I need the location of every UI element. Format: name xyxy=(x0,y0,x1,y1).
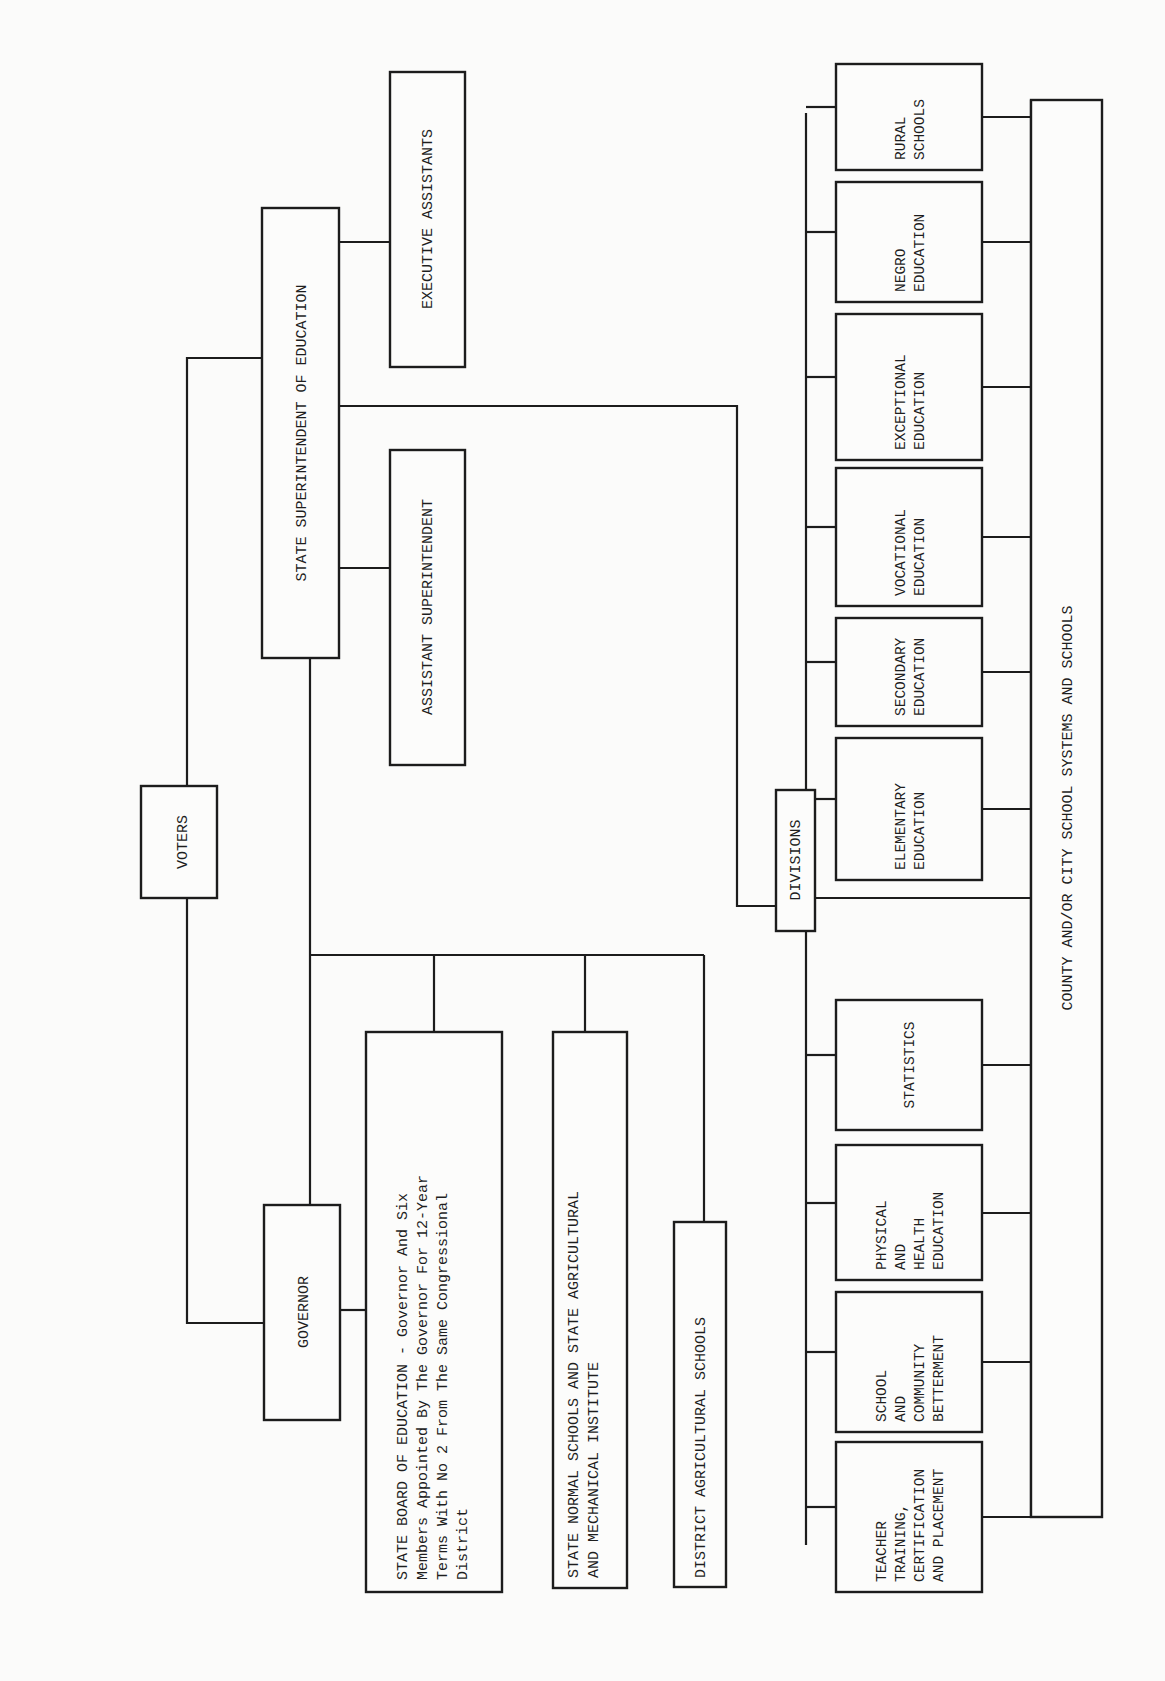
division-label-line: EXCEPTIONAL xyxy=(893,354,909,450)
node-executive-assistants: EXECUTIVE ASSISTANTS xyxy=(390,72,465,367)
governor-label: GOVERNOR xyxy=(296,1276,313,1348)
division-label-line: STATISTICS xyxy=(902,1021,918,1108)
executive-assistants-label: EXECUTIVE ASSISTANTS xyxy=(420,129,437,309)
division-label-line: EDUCATION xyxy=(912,214,928,292)
division-label-line: SECONDARY xyxy=(893,637,909,716)
division-box xyxy=(836,64,982,170)
division-label-line: VOCATIONAL xyxy=(893,509,909,596)
division-label-line: HEALTH xyxy=(912,1218,928,1270)
node-assistant-superintendent: ASSISTANT SUPERINTENDENT xyxy=(390,450,465,765)
divisions-label: DIVISIONS xyxy=(788,819,805,900)
division-box xyxy=(836,1442,982,1592)
division-node: ELEMENTARYEDUCATION xyxy=(836,738,982,880)
division-label-line: CERTIFICATION xyxy=(912,1469,928,1582)
division-label-line: SCHOOL xyxy=(874,1370,890,1422)
connector-voters-governor xyxy=(187,898,264,1323)
division-node: VOCATIONALEDUCATION xyxy=(836,468,982,606)
normal-schools-line-2: AND MECHANICAL INSTITUTE xyxy=(586,1362,603,1578)
voters-label: VOTERS xyxy=(175,815,192,869)
division-label-line: COMMUNITY xyxy=(912,1343,928,1422)
state-board-line-1: STATE BOARD OF EDUCATION - Governor And … xyxy=(395,1193,412,1580)
division-label-line: TRAINING, xyxy=(893,1504,909,1582)
division-label-line: EDUCATION xyxy=(912,372,928,450)
state-board-line-2: Members Appointed By The Governor For 12… xyxy=(415,1175,432,1580)
division-label-line: BETTERMENT xyxy=(931,1335,947,1422)
division-box xyxy=(836,1145,982,1280)
node-state-board: STATE BOARD OF EDUCATION - Governor And … xyxy=(366,1032,502,1592)
division-box xyxy=(836,618,982,726)
connector-voters-superintendent xyxy=(187,358,262,786)
node-voters: VOTERS xyxy=(141,786,217,898)
division-label-line: TEACHER xyxy=(874,1521,890,1582)
division-box xyxy=(836,182,982,302)
division-label-line: PHYSICAL xyxy=(874,1200,890,1270)
node-governor: GOVERNOR xyxy=(264,1205,340,1420)
state-board-line-4: District xyxy=(455,1508,472,1580)
node-state-superintendent: STATE SUPERINTENDENT OF EDUCATION xyxy=(262,208,339,658)
node-normal-schools: STATE NORMAL SCHOOLS AND STATE AGRICULTU… xyxy=(553,1032,627,1588)
division-label-line: EDUCATION xyxy=(912,518,928,596)
normal-schools-line-1: STATE NORMAL SCHOOLS AND STATE AGRICULTU… xyxy=(566,1191,583,1578)
node-county-city: COUNTY AND/OR CITY SCHOOL SYSTEMS AND SC… xyxy=(1031,100,1102,1517)
division-node: RURALSCHOOLS xyxy=(836,64,982,170)
division-label-line: AND xyxy=(893,1244,909,1270)
division-label-line: NEGRO xyxy=(893,248,909,292)
division-node: SCHOOLANDCOMMUNITYBETTERMENT xyxy=(836,1292,982,1432)
division-label-line: ELEMENTARY xyxy=(893,783,909,870)
division-node: STATISTICS xyxy=(836,1000,982,1130)
division-box xyxy=(836,314,982,460)
division-label-line: AND xyxy=(893,1396,909,1422)
division-node: NEGROEDUCATION xyxy=(836,182,982,302)
district-agricultural-label: DISTRICT AGRICULTURAL SCHOOLS xyxy=(693,1317,710,1578)
division-label-line: RURAL xyxy=(893,116,909,160)
division-node: PHYSICALANDHEALTHEDUCATION xyxy=(836,1145,982,1280)
state-superintendent-label: STATE SUPERINTENDENT OF EDUCATION xyxy=(294,284,311,581)
division-label-line: AND PLACEMENT xyxy=(931,1469,947,1582)
state-board-line-3: Terms With No 2 From The Same Congressio… xyxy=(435,1193,452,1580)
node-divisions: DIVISIONS xyxy=(776,790,815,931)
node-district-agricultural: DISTRICT AGRICULTURAL SCHOOLS xyxy=(674,1222,726,1587)
division-node: SECONDARYEDUCATION xyxy=(836,618,982,726)
division-boxes: RURALSCHOOLSNEGROEDUCATIONEXCEPTIONALEDU… xyxy=(836,64,982,1592)
division-box xyxy=(836,1292,982,1432)
division-box xyxy=(836,738,982,880)
division-box xyxy=(836,468,982,606)
state-board-box xyxy=(366,1032,502,1592)
division-label-line: SCHOOLS xyxy=(912,99,928,160)
county-city-label: COUNTY AND/OR CITY SCHOOL SYSTEMS AND SC… xyxy=(1060,605,1077,1010)
division-label-line: EDUCATION xyxy=(912,792,928,870)
division-node: EXCEPTIONALEDUCATION xyxy=(836,314,982,460)
assistant-superintendent-label: ASSISTANT SUPERINTENDENT xyxy=(420,499,437,715)
division-label-line: EDUCATION xyxy=(912,638,928,716)
division-node: TEACHERTRAINING,CERTIFICATIONAND PLACEME… xyxy=(836,1442,982,1592)
division-label-line: EDUCATION xyxy=(931,1192,947,1270)
org-chart: VOTERS GOVERNOR STATE SUPERINTENDENT OF … xyxy=(0,0,1165,1681)
